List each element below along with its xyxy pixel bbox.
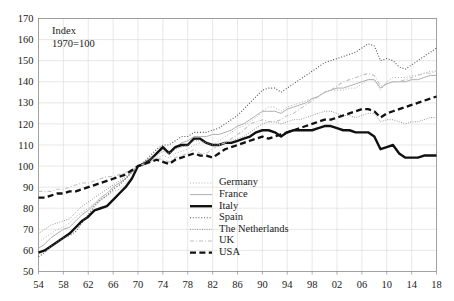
x-tick-label: 94 <box>282 279 293 290</box>
line-chart: 5060708090100110120130140150160170 54586… <box>0 0 454 301</box>
y-tick-label: 160 <box>18 34 34 45</box>
legend-label-germany: Germany <box>219 176 259 187</box>
legend-label-spain: Spain <box>219 211 244 222</box>
y-tick-label: 170 <box>18 13 34 24</box>
x-tick-label: 78 <box>183 279 194 290</box>
x-tick-label: 90 <box>257 279 268 290</box>
x-tick-label: 54 <box>33 279 44 290</box>
x-tick-label: 58 <box>58 279 69 290</box>
x-tick-label: 18 <box>431 279 442 290</box>
y-tick-label: 80 <box>23 203 34 214</box>
x-tick-label: 98 <box>307 279 318 290</box>
x-axis-tick-marks <box>39 272 437 275</box>
y-axis-tick-labels: 5060708090100110120130140150160170 <box>18 13 34 277</box>
x-tick-label: 74 <box>158 279 169 290</box>
y-tick-label: 70 <box>23 224 34 235</box>
x-tick-label: 86 <box>232 279 243 290</box>
chart-canvas: 5060708090100110120130140150160170 54586… <box>0 0 454 301</box>
chart-legend: GermanyFranceItalySpainThe NetherlandsUK… <box>190 176 289 257</box>
legend-label-usa: USA <box>219 246 240 257</box>
x-tick-label: 10 <box>382 279 393 290</box>
y-tick-label: 120 <box>18 119 34 130</box>
y-tick-label: 150 <box>18 55 34 66</box>
x-tick-label: 02 <box>332 279 343 290</box>
x-tick-label: 06 <box>357 279 368 290</box>
y-tick-label: 140 <box>18 76 34 87</box>
x-tick-label: 70 <box>133 279 144 290</box>
y-tick-label: 50 <box>23 266 34 277</box>
legend-label-uk: UK <box>219 234 235 245</box>
annotation-line-2: 1970=100 <box>52 38 95 49</box>
x-tick-label: 14 <box>406 279 417 290</box>
y-tick-label: 130 <box>18 97 34 108</box>
x-tick-label: 62 <box>83 279 94 290</box>
x-axis-tick-labels: 5458626670747882869094980206101418 <box>33 279 442 290</box>
legend-label-italy: Italy <box>219 200 239 211</box>
y-tick-label: 60 <box>23 245 34 256</box>
y-tick-label: 100 <box>18 161 34 172</box>
legend-label-the-netherlands: The Netherlands <box>219 223 289 234</box>
x-tick-label: 66 <box>108 279 119 290</box>
annotation-line-1: Index <box>52 25 77 36</box>
x-tick-label: 82 <box>207 279 218 290</box>
y-tick-label: 110 <box>18 140 33 151</box>
legend-label-france: France <box>219 188 248 199</box>
y-tick-label: 90 <box>23 182 34 193</box>
